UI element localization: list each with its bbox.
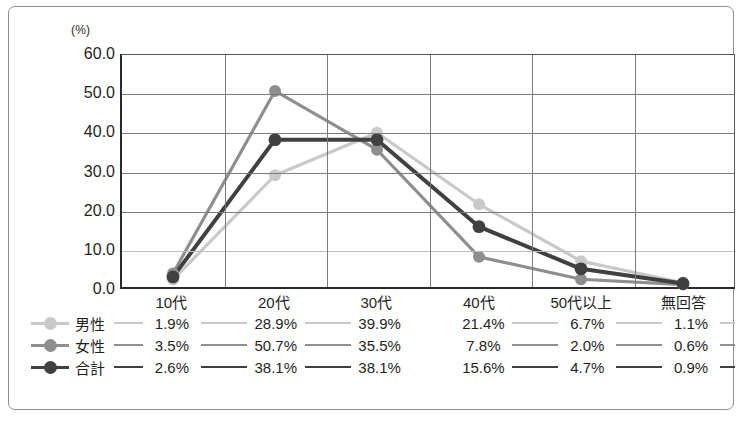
- legend-series-name: 男性: [69, 313, 105, 334]
- y-axis-tick-labels: 0.010.020.030.040.050.060.0: [49, 7, 115, 307]
- horizontal-gridline: [122, 251, 734, 252]
- legend-value-cell: 38.1%: [224, 359, 328, 376]
- legend-value-cell: 1.1%: [639, 315, 742, 332]
- y-axis-tick-20-0: 20.0: [55, 202, 115, 220]
- chart-card-frame: (%) 0.010.020.030.040.050.060.0 10代20代30…: [8, 6, 734, 410]
- series-lines-layer: [122, 55, 734, 287]
- legend-value-cell: 1.9%: [120, 315, 224, 332]
- vertical-gridline: [327, 55, 328, 287]
- legend-value-cell: 28.9%: [224, 315, 328, 332]
- data-point-marker: [269, 169, 281, 181]
- legend-key: 合計: [9, 356, 120, 378]
- legend-value-cell: 38.1%: [328, 359, 432, 376]
- data-point-marker: [677, 277, 690, 290]
- legend-key: 男性: [9, 312, 120, 334]
- legend-value-cell: 3.5%: [120, 337, 224, 354]
- legend-value-cell: 50.7%: [224, 337, 328, 354]
- horizontal-gridline: [122, 212, 734, 213]
- legend-value-cell: 0.9%: [639, 359, 742, 376]
- data-point-marker: [269, 133, 282, 146]
- data-point-marker: [473, 198, 485, 210]
- horizontal-gridline: [122, 133, 734, 134]
- y-axis-tick-0-0: 0.0: [55, 280, 115, 298]
- legend-row-女性: 女性3.5%50.7%35.5%7.8%2.0%0.6%: [9, 334, 742, 356]
- legend-value-cell: 2.6%: [120, 359, 224, 376]
- series-line-女性: [173, 91, 683, 285]
- legend-value-row: 1.9%28.9%39.9%21.4%6.7%1.1%: [120, 312, 742, 334]
- y-axis-tick-30-0: 30.0: [55, 163, 115, 181]
- legend-value-cell: 4.7%: [535, 359, 639, 376]
- legend-key: 女性: [9, 334, 120, 356]
- legend-value-cell: 7.8%: [431, 337, 535, 354]
- legend-row-男性: 男性1.9%28.9%39.9%21.4%6.7%1.1%: [9, 312, 742, 334]
- data-point-marker: [167, 271, 180, 284]
- y-axis-tick-50-0: 50.0: [55, 84, 115, 102]
- legend-marker-icon: [31, 359, 69, 375]
- legend-value-cell: 35.5%: [328, 337, 432, 354]
- legend-data-table: 男性1.9%28.9%39.9%21.4%6.7%1.1%女性3.5%50.7%…: [9, 312, 742, 378]
- data-point-marker: [473, 251, 485, 263]
- legend-series-name: 合計: [69, 357, 105, 378]
- legend-value-cell: 39.9%: [328, 315, 432, 332]
- legend-row-合計: 合計2.6%38.1%38.1%15.6%4.7%0.9%: [9, 356, 742, 378]
- y-axis-tick-10-0: 10.0: [55, 241, 115, 259]
- legend-value-cell: 15.6%: [431, 359, 535, 376]
- y-axis-tick-40-0: 40.0: [55, 123, 115, 141]
- legend-value-row: 3.5%50.7%35.5%7.8%2.0%0.6%: [120, 334, 742, 356]
- legend-marker-icon: [31, 315, 69, 331]
- legend-value-cell: 2.0%: [535, 337, 639, 354]
- y-axis-tick-60-0: 60.0: [55, 45, 115, 63]
- vertical-gridline: [532, 55, 533, 287]
- vertical-gridline: [225, 55, 226, 287]
- data-point-marker: [473, 220, 486, 233]
- horizontal-gridline: [122, 173, 734, 174]
- vertical-gridline: [635, 55, 636, 287]
- data-point-marker: [575, 262, 588, 275]
- legend-marker-icon: [31, 337, 69, 353]
- plot-area: [120, 54, 735, 289]
- legend-value-cell: 21.4%: [431, 315, 535, 332]
- legend-value-cell: 6.7%: [535, 315, 639, 332]
- series-line-男性: [173, 133, 683, 283]
- legend-series-name: 女性: [69, 335, 105, 356]
- horizontal-gridline: [122, 94, 734, 95]
- chart-plot-region: (%) 0.010.020.030.040.050.060.0 10代20代30…: [9, 7, 742, 307]
- legend-value-row: 2.6%38.1%38.1%15.6%4.7%0.9%: [120, 356, 742, 378]
- legend-value-cell: 0.6%: [639, 337, 742, 354]
- vertical-gridline: [430, 55, 431, 287]
- data-point-marker: [371, 133, 384, 146]
